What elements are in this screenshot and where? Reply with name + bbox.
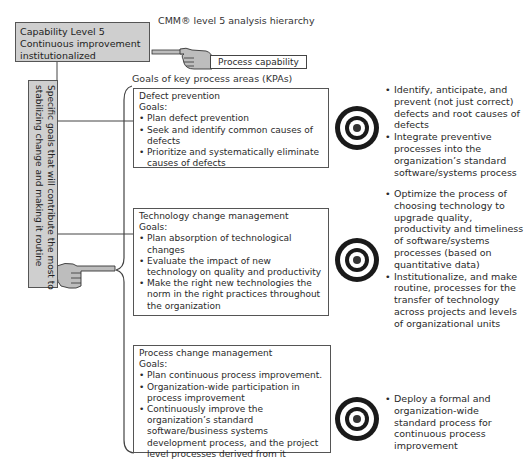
specific-goals-box: Specific goals that will contribute the … (28, 80, 58, 288)
process-capability-label: Process capability (210, 55, 307, 69)
capability-line: institutionalized (20, 50, 145, 62)
pointing-hand-icon (55, 260, 119, 290)
capability-level-box: Capability Level 5 Continuous improvemen… (15, 22, 150, 62)
pointing-hand-icon (150, 47, 214, 71)
goal-item: Organization-wide participation in proce… (139, 382, 325, 404)
outcome-item: Deploy a formal and organization-wide st… (385, 393, 505, 452)
goal-item: Evaluate the impact of new technology on… (139, 256, 323, 278)
outcome-item: Identify, anticipate, and prevent (not j… (385, 84, 525, 131)
goal-item: Plan absorption of technological changes (139, 233, 323, 255)
target-icon (334, 105, 380, 151)
goal-item: Plan continuous process improvement. (139, 370, 325, 381)
goals-label: Goals: (139, 359, 325, 370)
kpa-box-process-change-management: Process change management Goals: Plan co… (133, 345, 331, 453)
goals-label: Goals: (139, 102, 323, 113)
diagram-title: CMM® level 5 analysis hierarchy (158, 15, 315, 26)
goal-item: Plan defect prevention (139, 113, 323, 124)
goals-label: Goals: (139, 222, 323, 233)
target-icon (334, 237, 380, 283)
goals-list: Plan continuous process improvement. Org… (139, 370, 325, 460)
outcomes-technology-change-management: Optimize the process of choosing technol… (385, 188, 525, 330)
outcome-item: Integrate preventive processes into the … (385, 131, 525, 178)
goal-item: Make the right new technologies the norm… (139, 278, 323, 312)
goal-item: Prioritize and systematically eliminate … (139, 147, 323, 169)
outcomes-defect-prevention: Identify, anticipate, and prevent (not j… (385, 84, 525, 178)
kpa-box-defect-prevention: Defect prevention Goals: Plan defect pre… (133, 88, 329, 168)
specific-goals-text: Specific goals that will contribute the … (31, 85, 57, 285)
kpa-section-label: Goals of key process areas (KPAs) (132, 73, 292, 84)
goal-item: Continuously improve the organization’s … (139, 404, 325, 460)
capability-line: Continuous improvement (20, 38, 145, 50)
capability-line: Capability Level 5 (20, 26, 145, 38)
kpa-name: Defect prevention (139, 91, 323, 102)
goals-list: Plan absorption of technological changes… (139, 233, 323, 311)
side-text-line: stabilizing change and making it routine (33, 85, 45, 285)
goals-list: Plan defect prevention Seek and identify… (139, 113, 323, 169)
outcomes-process-change-management: Deploy a formal and organization-wide st… (385, 393, 505, 452)
outcome-item: Institutionalize, and make routine, proc… (385, 271, 525, 330)
kpa-name: Technology change management (139, 211, 323, 222)
kpa-box-technology-change-management: Technology change management Goals: Plan… (133, 208, 329, 316)
kpa-name: Process change management (139, 348, 325, 359)
outcome-item: Optimize the process of choosing technol… (385, 188, 525, 271)
side-text-line: Specific goals that will contribute the … (45, 85, 57, 285)
goal-item: Seek and identify common causes of defec… (139, 125, 323, 147)
target-icon (334, 396, 380, 442)
